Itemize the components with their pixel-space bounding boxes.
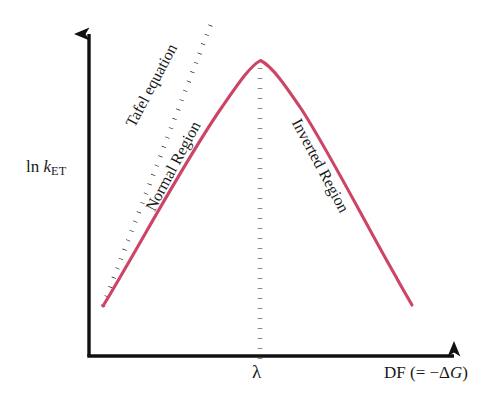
y-axis-label-prefix: ln [26,157,43,176]
y-axis-label-subscript: ET [51,164,66,178]
plot-canvas [0,0,503,403]
y-axis-label-symbol: k [43,157,51,176]
y-axis-label: ln kET [26,158,66,177]
marcus-theory-plot: ln kET DF (= −ΔG) λ Tafel equation Norma… [0,0,503,403]
x-axis-tick-label-lambda: λ [252,362,261,381]
x-axis-label-prefix: DF (= −Δ [384,363,450,382]
x-axis-label: DF (= −ΔG) [384,364,468,381]
x-axis-label-suffix: ) [462,363,468,382]
x-axis-label-symbol: G [450,363,462,382]
